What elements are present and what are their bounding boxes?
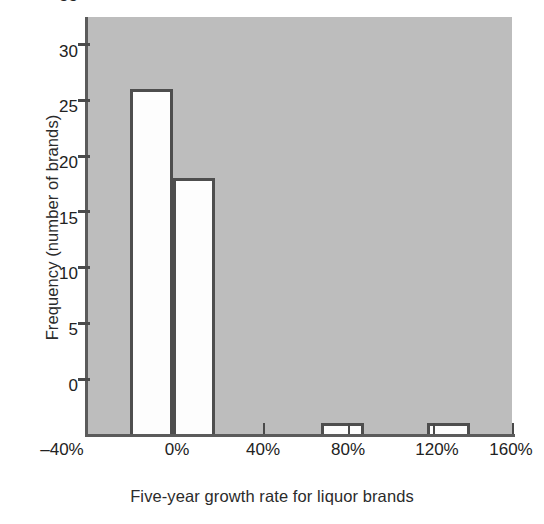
bar-bin-2 xyxy=(173,178,215,434)
y-tick-mark-10 xyxy=(78,322,90,325)
y-tick-label-15: 15 xyxy=(44,210,78,227)
x-tick-mark-160 xyxy=(512,423,514,434)
x-tick-label-0: 0% xyxy=(165,440,190,460)
y-tick-label-0: 0 xyxy=(44,377,78,394)
y-tick-mark-35 xyxy=(78,43,90,46)
x-tick-label-80: 80% xyxy=(331,440,365,460)
y-axis-line xyxy=(85,17,88,436)
y-tick-label-35: 35 xyxy=(44,0,78,4)
x-tick-mark-80 xyxy=(348,423,350,434)
y-tick-label-30: 30 xyxy=(44,43,78,60)
histogram-chart: Frequency (number of brands) 0 5 10 15 2… xyxy=(0,0,544,524)
x-tick-label-120: 120% xyxy=(415,440,458,460)
plot-area xyxy=(88,17,512,434)
y-tick-label-25: 25 xyxy=(44,98,78,115)
y-tick-label-10: 10 xyxy=(44,265,78,282)
bar-bin-1 xyxy=(130,89,172,434)
y-tick-label-20: 20 xyxy=(44,154,78,171)
y-tick-mark-5 xyxy=(78,378,90,381)
y-tick-mark-15 xyxy=(78,266,90,269)
x-tick-label-40: 40% xyxy=(246,440,280,460)
x-axis-title: Five-year growth rate for liquor brands xyxy=(0,487,544,506)
x-axis-line xyxy=(85,434,515,437)
y-tick-label-5: 5 xyxy=(44,321,78,338)
x-tick-mark-120 xyxy=(433,423,435,434)
y-tick-mark-25 xyxy=(78,155,90,158)
bar-bin-3 xyxy=(321,423,363,434)
y-tick-mark-20 xyxy=(78,210,90,213)
y-tick-mark-30 xyxy=(78,99,90,102)
x-tick-mark-40 xyxy=(263,423,265,434)
x-tick-label-neg40: –40% xyxy=(40,440,83,460)
x-tick-label-160: 160% xyxy=(489,440,532,460)
